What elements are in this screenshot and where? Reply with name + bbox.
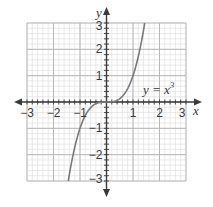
x-tick-label: −2: [47, 106, 61, 120]
y-tick-label: −2: [89, 148, 103, 162]
equation-label: y = x3: [141, 80, 175, 97]
x-tick-label: 2: [156, 106, 163, 120]
y-tick-label: −3: [89, 172, 103, 186]
y-tick-label: 3: [96, 19, 103, 33]
y-axis-down-arrow-icon: [103, 189, 110, 197]
y-tick-label: 2: [96, 42, 103, 56]
x-tick-label: −3: [20, 106, 34, 120]
cubic-function-graph: −3−2−1123−3−2−1123 x y y = x3: [0, 0, 213, 207]
y-tick-label: −1: [89, 121, 103, 135]
x-axis-left-arrow-icon: [14, 99, 22, 106]
equation-main: y = x: [141, 82, 170, 97]
y-axis-label: y: [94, 5, 102, 20]
x-tick-label: 1: [130, 106, 137, 120]
y-tick-label: 1: [96, 69, 103, 83]
y-axis-up-arrow-icon: [103, 7, 110, 15]
x-tick-label: 3: [179, 106, 186, 120]
equation-exponent: 3: [169, 80, 175, 90]
x-axis-label: x: [192, 103, 199, 118]
x-tick-label: −1: [73, 106, 87, 120]
